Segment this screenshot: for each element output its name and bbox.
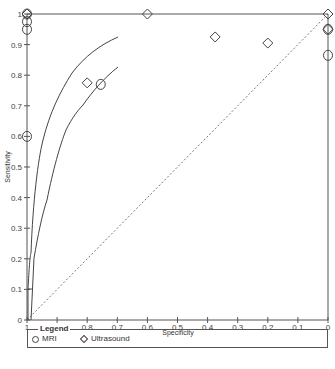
y-axis-title: Sensitivity xyxy=(4,151,12,183)
legend-item-mri: MRI xyxy=(32,334,57,344)
ultrasound-point-marker xyxy=(210,32,220,42)
ultrasound-point-marker xyxy=(263,38,273,48)
legend: Legend MRI Ultrasound xyxy=(27,329,328,348)
y-tick-label: 0.5 xyxy=(11,163,23,172)
data-points xyxy=(22,9,333,141)
y-tick-label: 0 xyxy=(18,316,23,325)
legend-title: Legend xyxy=(38,324,70,333)
sroc-chart: 00.10.20.30.40.50.60.70.80.91 10.90.80.7… xyxy=(0,0,335,369)
legend-item-ultrasound: Ultrasound xyxy=(80,334,130,344)
y-tick-label: 0.9 xyxy=(11,41,23,50)
y-tick-label: 0.8 xyxy=(11,71,23,80)
y-tick-label: 0.6 xyxy=(11,132,23,141)
sroc-curve-upper xyxy=(31,37,118,253)
ultrasound-point-marker xyxy=(82,78,92,88)
legend-label-mri: MRI xyxy=(42,334,57,344)
legend-label-ultrasound: Ultrasound xyxy=(91,334,130,344)
y-tick-label: 0.3 xyxy=(11,224,23,233)
sroc-curve-lower xyxy=(34,67,118,258)
circle-marker-icon xyxy=(32,336,39,343)
y-tick-label: 0.1 xyxy=(11,285,23,294)
y-tick-label: 0.7 xyxy=(11,102,23,111)
mri-point-marker xyxy=(96,79,105,89)
sroc-curve-upper-base xyxy=(28,253,31,320)
diamond-marker-icon xyxy=(80,335,88,343)
chance-diagonal-line xyxy=(27,14,328,320)
y-tick-label: 0.2 xyxy=(11,255,23,264)
y-tick-label: 0.4 xyxy=(11,194,23,203)
